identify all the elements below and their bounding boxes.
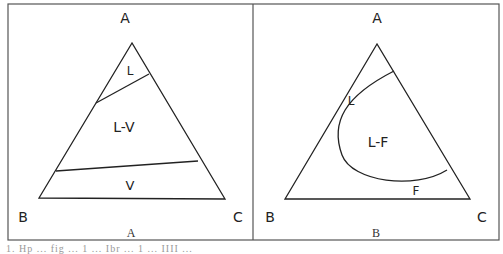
vertex-label-c: C	[233, 209, 243, 225]
region-label-v: V	[126, 178, 135, 193]
panel-a: A B C L L-V V A	[18, 10, 243, 240]
binodal-curve	[338, 71, 447, 181]
panel-caption-b: B	[372, 226, 380, 240]
region-label-l: L	[127, 64, 134, 78]
ternary-triangle-b	[285, 44, 470, 199]
region-label-l-f: L-F	[368, 134, 389, 150]
region-label-l: L	[348, 94, 355, 108]
vertex-label-a: A	[372, 10, 382, 26]
vapor-boundary-line	[56, 161, 198, 171]
panel-b: A B C L L-F F B	[265, 10, 487, 240]
panel-caption-a: A	[127, 226, 136, 240]
region-label-l-v: L-V	[113, 119, 135, 135]
vertex-label-b: B	[18, 209, 28, 225]
vertex-label-a: A	[120, 10, 130, 26]
cut-off-footer-text: 1. Hp ... fig ... 1 ... Ibr ... 1 ... II…	[6, 243, 193, 254]
vertex-label-c: C	[477, 209, 487, 225]
region-label-f: F	[413, 184, 420, 198]
vertex-label-b: B	[265, 209, 275, 225]
